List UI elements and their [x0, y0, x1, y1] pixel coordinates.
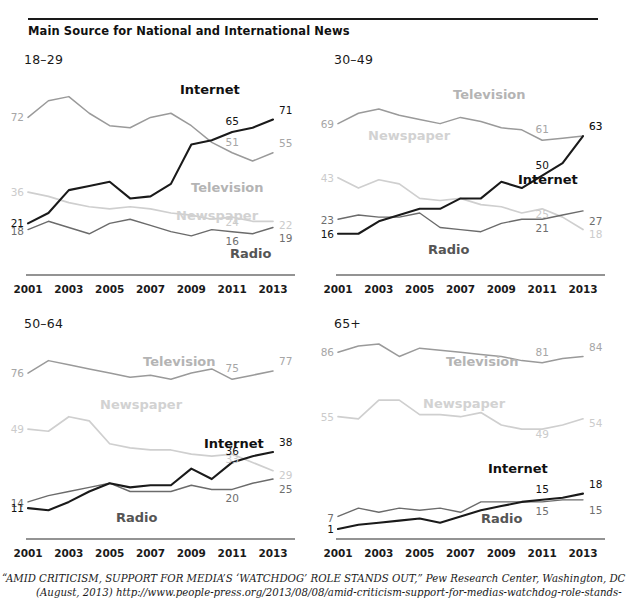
value-label-internet: 63: [589, 120, 602, 132]
x-tick-label: 2007: [446, 283, 475, 295]
value-label-newspaper: 22: [279, 219, 292, 231]
x-tick-label: 2005: [405, 547, 434, 559]
x-tick-label: 2005: [95, 547, 124, 559]
panel-65-plus: 65+ 5549548681847151511518InternetTelevi…: [318, 316, 626, 566]
x-tick-label: 2009: [487, 547, 516, 559]
x-tick-label: 2013: [258, 283, 287, 295]
series-label-newspaper: Newspaper: [368, 128, 451, 143]
value-label-radio: 7: [327, 512, 334, 524]
x-tick-label: 2005: [405, 283, 434, 295]
figure-root: Main Source for National and Internation…: [0, 0, 626, 601]
series-label-television: Television: [191, 180, 264, 195]
value-label-television: 75: [226, 362, 239, 374]
value-label-newspaper: 55: [321, 411, 334, 423]
value-label-internet: 65: [226, 115, 239, 127]
value-label-internet: 21: [11, 217, 24, 229]
value-label-television: 77: [279, 355, 292, 367]
x-tick-label: 2007: [136, 283, 165, 295]
value-label-newspaper: 49: [536, 428, 549, 440]
series-label-internet: Internet: [180, 82, 240, 97]
x-tick-label: 2009: [177, 283, 206, 295]
x-tick-label: 2001: [13, 547, 42, 559]
series-label-newspaper: Newspaper: [423, 396, 506, 411]
value-label-radio: 19: [279, 232, 292, 244]
panel-plot: 493329767577142025113638InternetTelevisi…: [8, 336, 318, 566]
x-tick-label: 2001: [323, 547, 352, 559]
value-label-television: 55: [279, 137, 292, 149]
value-label-television: 81: [536, 346, 549, 358]
value-label-radio: 15: [536, 505, 549, 517]
value-label-television: 69: [321, 118, 334, 130]
series-label-internet: Internet: [488, 461, 548, 476]
line-chart-30-49: 432518696163232127165063InternetTelevisi…: [318, 72, 626, 302]
panel-title: 18–29: [24, 52, 63, 67]
value-label-newspaper: 54: [589, 417, 603, 429]
value-label-newspaper: 25: [536, 208, 549, 220]
x-tick-label: 2011: [218, 283, 247, 295]
source-citation-line2: (August, 2013) http://www.people-press.o…: [0, 586, 626, 601]
series-label-television: Television: [453, 87, 526, 102]
value-label-newspaper: 43: [321, 172, 334, 184]
source-citation: “AMID CRITICISM, SUPPORT FOR MEDIA’S ‘WA…: [0, 572, 626, 601]
x-tick-label: 2007: [446, 547, 475, 559]
x-tick-label: 2005: [95, 283, 124, 295]
series-label-newspaper: Newspaper: [100, 397, 183, 412]
x-tick-label: 2009: [177, 547, 206, 559]
series-line-television: [28, 97, 273, 161]
value-label-radio: 27: [589, 215, 602, 227]
x-tick-label: 2011: [528, 547, 557, 559]
x-tick-label: 2011: [528, 283, 557, 295]
line-chart-18-29: 362422725155181619216571InternetTelevisi…: [8, 72, 318, 302]
x-tick-label: 2009: [487, 283, 516, 295]
top-rule: [28, 18, 598, 20]
value-label-internet: 38: [279, 436, 292, 448]
series-label-internet: Internet: [518, 172, 578, 187]
x-tick-label: 2001: [323, 283, 352, 295]
value-label-radio: 23: [321, 214, 334, 226]
x-tick-label: 2013: [568, 547, 597, 559]
panel-30-49: 30–49 432518696163232127165063InternetTe…: [318, 52, 626, 302]
x-tick-label: 2013: [568, 283, 597, 295]
series-label-newspaper: Newspaper: [176, 208, 259, 223]
page-title: Main Source for National and Internation…: [28, 24, 350, 38]
value-label-radio: 20: [226, 492, 239, 504]
panel-18-29: 18–29 362422725155181619216571InternetTe…: [8, 52, 318, 302]
value-label-television: 86: [321, 346, 335, 358]
value-label-internet: 18: [589, 478, 602, 490]
x-tick-label: 2011: [218, 547, 247, 559]
line-chart-50-64: 493329767577142025113638InternetTelevisi…: [8, 336, 318, 566]
value-label-internet: 15: [536, 483, 549, 495]
x-tick-label: 2003: [364, 547, 393, 559]
value-label-television: 51: [226, 136, 239, 148]
panel-title: 65+: [334, 316, 361, 331]
value-label-radio: 15: [589, 504, 602, 516]
panel-50-64: 50–64 493329767577142025113638InternetTe…: [8, 316, 318, 566]
value-label-television: 84: [589, 341, 603, 353]
source-citation-line1: “AMID CRITICISM, SUPPORT FOR MEDIA’S ‘WA…: [0, 572, 626, 586]
series-label-internet: Internet: [204, 436, 264, 451]
value-label-radio: 21: [536, 222, 549, 234]
value-label-newspaper: 49: [11, 423, 24, 435]
panel-plot: 362422725155181619216571InternetTelevisi…: [8, 72, 318, 302]
value-label-radio: 16: [226, 235, 240, 247]
panel-title: 50–64: [24, 316, 63, 331]
series-label-radio: Radio: [116, 510, 158, 525]
value-label-internet: 71: [279, 104, 292, 116]
value-label-internet: 50: [536, 159, 549, 171]
panel-title: 30–49: [334, 52, 373, 67]
value-label-internet: 11: [11, 502, 24, 514]
x-tick-label: 2001: [13, 283, 42, 295]
value-label-internet: 16: [321, 228, 335, 240]
x-tick-label: 2013: [258, 547, 287, 559]
value-label-internet: 1: [327, 523, 334, 535]
value-label-newspaper: 36: [11, 186, 25, 198]
series-label-radio: Radio: [230, 246, 272, 261]
x-tick-label: 2003: [54, 283, 83, 295]
value-label-television: 61: [536, 123, 549, 135]
value-label-television: 76: [11, 367, 25, 379]
value-label-radio: 25: [279, 483, 292, 495]
panel-plot: 432518696163232127165063InternetTelevisi…: [318, 72, 626, 302]
series-label-television: Television: [143, 354, 216, 369]
series-label-radio: Radio: [481, 511, 523, 526]
x-tick-label: 2003: [364, 283, 393, 295]
